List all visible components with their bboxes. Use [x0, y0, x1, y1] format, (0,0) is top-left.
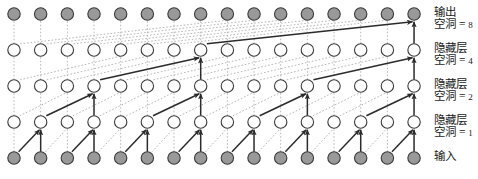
node-hidden-2-t10	[275, 80, 287, 92]
node-output-t14	[381, 8, 393, 20]
node-hidden-2-t6	[168, 80, 180, 92]
node-hidden-4-t4	[114, 44, 126, 56]
node-hidden-4-t3	[88, 44, 100, 56]
node-input-t9	[248, 152, 260, 164]
node-hidden-4-t7	[194, 44, 206, 56]
node-output-t7	[194, 8, 206, 20]
node-input-t8	[221, 152, 233, 164]
node-hidden-1-t1	[34, 116, 46, 128]
node-hidden-2-t2	[61, 80, 73, 92]
node-hidden-2-t8	[221, 80, 233, 92]
node-input-t2	[61, 152, 73, 164]
node-hidden-2-t3	[88, 80, 100, 92]
node-input-t6	[168, 152, 180, 164]
node-hidden-4-t12	[328, 44, 340, 56]
node-hidden-4-t2	[61, 44, 73, 56]
node-input-t3	[88, 152, 100, 164]
node-output-t3	[88, 8, 100, 20]
node-hidden-1-t13	[355, 116, 367, 128]
node-input-t10	[275, 152, 287, 164]
node-hidden-1-t6	[168, 116, 180, 128]
node-hidden-4-t13	[355, 44, 367, 56]
node-hidden-2-t15	[408, 80, 420, 92]
node-input-t12	[328, 152, 340, 164]
node-output-t10	[275, 8, 287, 20]
node-hidden-1-t14	[381, 116, 393, 128]
node-hidden-4-t1	[34, 44, 46, 56]
node-hidden-4-t8	[221, 44, 233, 56]
node-hidden-1-t15	[408, 116, 420, 128]
node-hidden-2-t12	[328, 80, 340, 92]
node-output-t12	[328, 8, 340, 20]
node-hidden-1-t3	[88, 116, 100, 128]
node-hidden-1-t4	[114, 116, 126, 128]
node-hidden-1-t10	[275, 116, 287, 128]
node-input-t15	[408, 152, 420, 164]
node-output-t5	[141, 8, 153, 20]
node-input-t13	[355, 152, 367, 164]
figure-root: 输出 空洞 = 8 隐藏层 空洞 = 4 隐藏层 空洞 = 2 隐藏层 空洞 =…	[0, 0, 478, 179]
node-hidden-1-t5	[141, 116, 153, 128]
node-output-t13	[355, 8, 367, 20]
node-output-t0	[8, 8, 20, 20]
node-input-t5	[141, 152, 153, 164]
node-input-t7	[194, 152, 206, 164]
node-hidden-4-t15	[408, 44, 420, 56]
network-diagram	[0, 0, 478, 179]
node-hidden-2-t5	[141, 80, 153, 92]
node-hidden-2-t13	[355, 80, 367, 92]
node-output-t6	[168, 8, 180, 20]
node-input-t14	[381, 152, 393, 164]
node-hidden-1-t9	[248, 116, 260, 128]
node-hidden-2-t1	[34, 80, 46, 92]
node-hidden-1-t12	[328, 116, 340, 128]
node-input-t0	[8, 152, 20, 164]
node-hidden-4-t9	[248, 44, 260, 56]
node-output-t4	[114, 8, 126, 20]
node-output-t8	[221, 8, 233, 20]
node-hidden-1-t7	[194, 116, 206, 128]
node-output-t11	[301, 8, 313, 20]
node-hidden-1-t11	[301, 116, 313, 128]
node-hidden-4-t11	[301, 44, 313, 56]
node-output-t2	[61, 8, 73, 20]
node-hidden-4-t5	[141, 44, 153, 56]
nodes-group	[8, 8, 420, 164]
node-hidden-2-t11	[301, 80, 313, 92]
node-output-t9	[248, 8, 260, 20]
node-input-t11	[301, 152, 313, 164]
node-hidden-4-t14	[381, 44, 393, 56]
node-hidden-2-t9	[248, 80, 260, 92]
node-hidden-2-t0	[8, 80, 20, 92]
node-input-t4	[114, 152, 126, 164]
node-hidden-1-t0	[8, 116, 20, 128]
node-output-t1	[34, 8, 46, 20]
node-hidden-2-t14	[381, 80, 393, 92]
node-hidden-4-t0	[8, 44, 20, 56]
node-hidden-1-t8	[221, 116, 233, 128]
node-hidden-2-t7	[194, 80, 206, 92]
node-output-t15	[408, 8, 420, 20]
node-hidden-1-t2	[61, 116, 73, 128]
node-hidden-2-t4	[114, 80, 126, 92]
node-input-t1	[34, 152, 46, 164]
node-hidden-4-t10	[275, 44, 287, 56]
node-hidden-4-t6	[168, 44, 180, 56]
